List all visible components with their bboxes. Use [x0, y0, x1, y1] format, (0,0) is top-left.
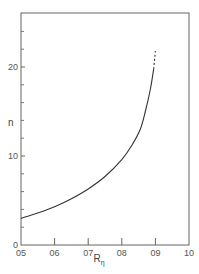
x-axis-label: Rη — [93, 253, 104, 267]
data-series — [21, 51, 155, 218]
series-line — [21, 69, 154, 219]
y-tick-label: 20 — [8, 62, 18, 72]
y-axis-ticks: 01020 — [8, 31, 25, 250]
x-tick-label: 09 — [150, 248, 160, 258]
series-line — [154, 51, 156, 69]
y-tick-label: 0 — [13, 240, 18, 250]
y-axis-label: n — [8, 117, 14, 128]
chart: 050607080910 01020 n Rη — [0, 0, 199, 274]
x-tick-label: 08 — [117, 248, 127, 258]
y-tick-label: 10 — [8, 151, 18, 161]
x-tick-label: 10 — [184, 248, 194, 258]
x-tick-label: 06 — [50, 248, 60, 258]
x-axis-ticks: 050607080910 — [16, 238, 194, 258]
x-tick-label: 07 — [83, 248, 93, 258]
